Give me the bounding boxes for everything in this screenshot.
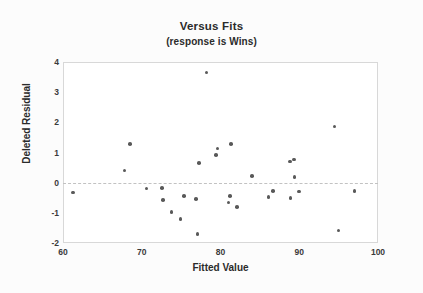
scatter-point [293,175,297,179]
scatter-point [205,71,209,75]
scatter-point [235,205,239,209]
chart-title: Versus Fits [0,20,423,32]
scatter-point [271,189,275,193]
y-tick-label: 4 [37,57,59,67]
scatter-point [289,196,293,200]
scatter-point [288,160,292,164]
scatter-point [160,186,164,190]
scatter-point [250,174,254,178]
scatter-point [337,229,341,233]
scatter-point [145,187,149,191]
x-axis-label: Fitted Value [63,262,378,273]
x-tick-label: 80 [206,247,236,257]
y-tick-label: 3 [37,87,59,97]
scatter-point [197,161,201,165]
x-tick-label: 60 [48,247,78,257]
chart-figure: Versus Fits (response is Wins) -2-101234… [0,0,423,293]
scatter-point [123,169,127,173]
scatter-point [292,158,296,162]
scatter-point [196,232,200,236]
scatter-point [267,195,271,199]
scatter-point [182,194,186,198]
scatter-point [161,198,165,202]
y-tick-label: 0 [37,178,59,188]
x-axis-ticks: 60708090100 [63,247,378,261]
scatter-point [353,189,357,193]
scatter-point [214,153,218,157]
scatter-point [216,147,220,151]
x-tick-label: 90 [284,247,314,257]
scatter-point [194,197,198,201]
scatter-point [228,194,232,198]
y-axis-ticks: -2-101234 [33,62,59,243]
scatter-plot-area [63,62,378,243]
y-axis-label: Deleted Residual [21,54,32,194]
scatter-point [227,201,231,205]
zero-reference-line [63,183,378,184]
scatter-point [297,190,301,194]
scatter-point [128,142,132,146]
scatter-point [333,125,337,129]
scatter-point [71,191,75,195]
y-tick-label: -1 [37,208,59,218]
y-tick-label: 2 [37,117,59,127]
y-tick-label: 1 [37,148,59,158]
scatter-point [170,210,174,214]
chart-subtitle: (response is Wins) [0,36,423,47]
x-tick-label: 70 [127,247,157,257]
x-tick-label: 100 [363,247,393,257]
scatter-point [229,142,233,146]
scatter-point [179,217,183,221]
